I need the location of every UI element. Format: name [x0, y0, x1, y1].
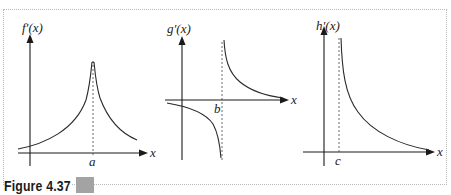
figure-caption: Figure 4.37	[4, 175, 87, 195]
curve-left-branch	[167, 103, 221, 158]
figure-caption-text: Figure 4.37	[4, 177, 72, 194]
graph-h-prime: h′(x) x c	[303, 18, 443, 168]
point-label-a: a	[89, 154, 96, 169]
x-axis-label: x	[290, 92, 297, 107]
x-axis-arrow-icon	[139, 150, 148, 157]
y-axis-arrow-icon	[179, 36, 186, 45]
x-axis-label: x	[149, 145, 156, 160]
point-label-b: b	[214, 101, 221, 116]
curve-right-branch	[224, 40, 283, 98]
graph-g-prime: g′(x) x b	[165, 21, 297, 160]
y-axis-label: h′(x)	[316, 18, 340, 33]
x-axis-label: x	[436, 144, 443, 159]
graph-f-prime: f′(x) x a	[18, 20, 156, 169]
curve	[341, 38, 429, 150]
y-axis-label: g′(x)	[167, 21, 191, 36]
curve-left-branch	[18, 62, 92, 149]
curve-right-branch	[94, 62, 137, 140]
figure-graphs: f′(x) x a g′(x) x b h′(x) x c	[0, 0, 451, 195]
y-axis-label: f′(x)	[22, 20, 43, 35]
caption-accent-bar	[76, 177, 94, 193]
point-label-c: c	[335, 153, 341, 168]
y-axis-arrow-icon	[27, 34, 34, 43]
